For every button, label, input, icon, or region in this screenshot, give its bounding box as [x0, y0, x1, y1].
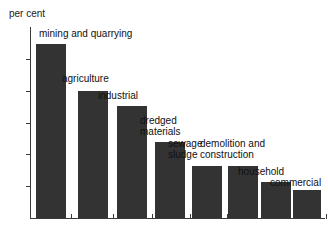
- bar-label-line: dredged: [140, 115, 181, 126]
- bar: [36, 44, 66, 218]
- x-axis-tick-mark: [190, 214, 191, 219]
- bar-label-line: construction: [200, 149, 265, 160]
- y-axis-tick-mark: [26, 91, 31, 92]
- bar-label: dredgedmaterials: [140, 115, 181, 137]
- bar-label-line: mining and quarrying: [39, 28, 132, 39]
- bar: [78, 91, 108, 218]
- bar-label-line: sludge: [168, 149, 202, 160]
- x-axis-line: [30, 218, 325, 219]
- x-axis-tick-mark: [326, 214, 327, 219]
- bar-label-line: commercial: [270, 177, 321, 188]
- y-axis-tick-mark: [26, 186, 31, 187]
- x-axis-tick-mark: [71, 214, 72, 219]
- bar-label: mining and quarrying: [39, 28, 132, 39]
- bar-label-line: agriculture: [62, 73, 109, 84]
- y-axis-tick-labels: 051015202530: [0, 0, 26, 239]
- bar-label-line: industrial: [98, 90, 138, 101]
- bar-label-line: demolition and: [200, 138, 265, 149]
- x-axis-tick-mark: [152, 214, 153, 219]
- bar-label: commercial: [270, 177, 321, 188]
- y-axis-tick-mark: [26, 123, 31, 124]
- bar-label-line: household: [238, 166, 284, 177]
- bar-label: agriculture: [62, 73, 109, 84]
- bar: [293, 190, 321, 218]
- x-axis-tick-mark: [113, 214, 114, 219]
- bar-label-line: materials: [140, 126, 181, 137]
- y-axis-tick-mark: [26, 154, 31, 155]
- bar-label: household: [238, 166, 284, 177]
- bar-label: industrial: [98, 90, 138, 101]
- bar-label-line: sewage: [168, 138, 202, 149]
- bar-label: demolition andconstruction: [200, 138, 265, 160]
- bar-label: sewagesludge: [168, 138, 202, 160]
- y-axis-tick-mark: [26, 59, 31, 60]
- bar: [192, 166, 222, 218]
- bar-chart: per cent 051015202530 mining and quarryi…: [0, 0, 328, 239]
